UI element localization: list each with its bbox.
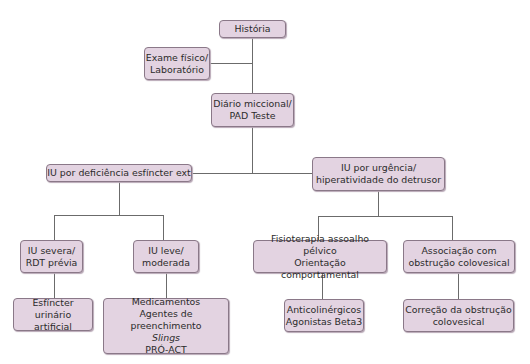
node-label: Diário miccional/ [213,98,292,110]
node-fisioterapia: Fisioterapia assoalho pélvico Orientação… [253,240,387,273]
node-label: Exame físico/ [146,52,209,64]
connector-level2-horizontal [192,173,312,174]
node-anticolinergicos: Anticolinérgicos Agonistas Beta3 [284,299,364,332]
connector-deficiencia-down [119,181,120,215]
node-iu-leve: IU leve/ moderada [133,240,199,273]
node-iu-severa: IU severa/ RDT prévia [20,240,83,273]
node-label: Slings [104,332,228,344]
node-label: colovesical [405,316,511,328]
connector-to-severa [54,215,55,240]
node-label: História [234,23,270,35]
node-historia: História [219,20,286,38]
connector-historia-diario [252,37,253,93]
connector-diario-split [252,127,253,173]
node-label: RDT prévia [26,257,78,269]
connector-exame [210,63,252,64]
node-label: Correção da obstrução [405,304,511,316]
connector-leve-medicamentos [166,273,167,298]
node-label: Associação com [408,245,509,257]
node-iu-deficiencia: IU por deficiência esfíncter ext [46,164,192,182]
node-label: hiperatividade do detrusor [316,174,441,186]
node-associacao-obstrucao: Associação com obstrução colovesical [403,240,515,273]
node-diario-miccional: Diário miccional/ PAD Teste [211,93,294,127]
connector-severa-esfincter [54,273,55,298]
node-label: PAD Teste [213,110,292,122]
node-label: Laboratório [146,64,209,76]
node-exame-fisico: Exame físico/ Laboratório [144,47,210,80]
node-label: IU por deficiência esfíncter ext [47,167,190,179]
connector-urgencia-down [378,191,379,216]
connector-deficiencia-branch [54,215,164,216]
node-label: Medicamentos [104,296,228,308]
connector-to-associacao [452,216,453,240]
node-label: Fisioterapia assoalho pélvico [254,233,386,257]
node-label: Esfíncter urinário [14,297,92,321]
node-label: Agonistas Beta3 [286,316,362,328]
node-label: Agentes de preenchimento [104,308,228,332]
node-label: obstrução colovesical [408,257,509,269]
node-label: IU severa/ [26,245,78,257]
node-medicamentos: Medicamentos Agentes de preenchimento Sl… [103,298,229,354]
node-label: PRÓ-ACT [104,344,228,356]
node-label: Anticolinérgicos [286,304,362,316]
node-label: Orientação comportamental [254,257,386,281]
node-correcao-obstrucao: Correção da obstrução colovesical [403,299,514,332]
connector-assoc-correcao [458,273,459,299]
connector-urgencia-branch [318,216,453,217]
node-label: artificial [14,321,92,333]
node-label: IU leve/ [142,245,190,257]
node-iu-urgencia: IU por urgência/ hiperatividade do detru… [312,157,445,191]
connector-to-leve [163,215,164,240]
node-label: moderada [142,257,190,269]
node-esfincter-artificial: Esfíncter urinário artificial [13,298,93,331]
node-label: IU por urgência/ [316,162,441,174]
